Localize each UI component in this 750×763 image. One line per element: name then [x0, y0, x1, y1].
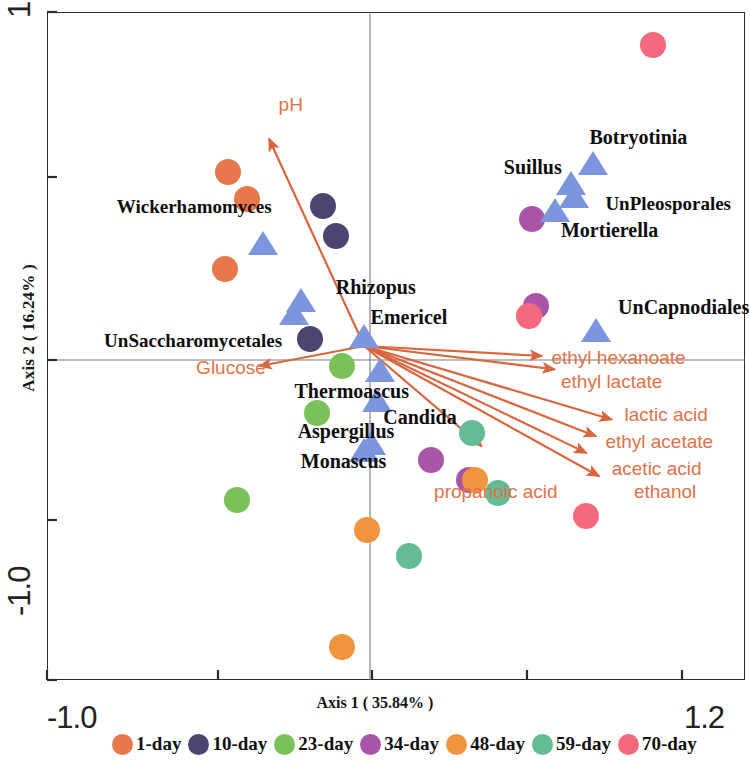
- legend-item[interactable]: 1-day: [112, 733, 181, 755]
- legend-label: 23-day: [298, 733, 353, 755]
- sample-point: [323, 223, 349, 249]
- legend-label: 34-day: [384, 733, 439, 755]
- taxon-label: UnPleosporales: [605, 193, 731, 215]
- legend-label: 10-day: [212, 733, 267, 755]
- sample-point: [212, 256, 238, 282]
- legend-label: 59-day: [556, 733, 611, 755]
- legend-color-swatch: [446, 734, 467, 755]
- sample-point: [224, 487, 250, 513]
- legend: 1-day10-day23-day34-day48-day59-day70-da…: [112, 733, 704, 755]
- taxon-label: Rhizopus: [336, 276, 416, 299]
- env-vector-label: pH: [279, 94, 303, 116]
- legend-item[interactable]: 59-day: [532, 733, 611, 755]
- x-axis-title: Axis 1 ( 35.84% ): [250, 694, 500, 712]
- sample-point: [215, 159, 241, 185]
- taxon-label: Botryotinia: [590, 126, 688, 149]
- x-axis-min-label: -1.0: [47, 700, 96, 736]
- taxon-marker: [365, 358, 395, 382]
- legend-color-swatch: [188, 734, 209, 755]
- sample-point: [418, 447, 444, 473]
- x-axis-max-label: 1.2: [684, 700, 724, 736]
- taxon-label: Mortierella: [561, 219, 658, 242]
- legend-color-swatch: [532, 734, 553, 755]
- env-vector-label: acetic acid: [612, 458, 702, 480]
- sample-point: [329, 353, 355, 379]
- env-vector-label: lactic acid: [624, 404, 707, 426]
- taxon-label: Emericel: [371, 306, 448, 329]
- taxon-label: Monascus: [301, 450, 387, 473]
- env-vector-label: Glucose: [196, 357, 266, 379]
- taxon-marker: [286, 288, 316, 312]
- env-vector-label: ethyl hexanoate: [551, 347, 685, 369]
- env-vector-label: ethyl lactate: [561, 371, 662, 393]
- sample-point: [310, 193, 336, 219]
- taxon-marker: [540, 198, 570, 222]
- legend-color-swatch: [112, 734, 133, 755]
- legend-color-swatch: [360, 734, 381, 755]
- legend-label: 48-day: [470, 733, 525, 755]
- env-vector-label: ethyl acetate: [605, 431, 713, 453]
- taxon-label: Thermoascus: [294, 380, 408, 403]
- legend-item[interactable]: 70-day: [618, 733, 697, 755]
- taxon-label: Aspergillus: [298, 420, 395, 443]
- legend-item[interactable]: 10-day: [188, 733, 267, 755]
- legend-label: 70-day: [642, 733, 697, 755]
- taxon-marker: [581, 318, 611, 342]
- sample-point: [459, 420, 485, 446]
- legend-item[interactable]: 23-day: [274, 733, 353, 755]
- y-axis-max-label: 1.0: [2, 0, 38, 18]
- sample-point: [329, 634, 355, 660]
- sample-point: [396, 543, 422, 569]
- taxon-label: UnCapnodiales: [618, 296, 749, 319]
- sample-point: [354, 517, 380, 543]
- taxon-label: Suillus: [504, 156, 562, 179]
- sample-point: [516, 303, 542, 329]
- legend-item[interactable]: 48-day: [446, 733, 525, 755]
- legend-item[interactable]: 34-day: [360, 733, 439, 755]
- y-axis-title: Axis 2 ( 16.24% ): [19, 233, 39, 423]
- legend-label: 1-day: [136, 733, 181, 755]
- biplot-figure: 1.0 -1.0 -1.0 1.2 Axis 2 ( 16.24% ) Axis…: [0, 0, 750, 763]
- taxon-marker: [578, 151, 608, 175]
- legend-color-swatch: [274, 734, 295, 755]
- env-vector-label: propanoic acid: [434, 481, 558, 503]
- taxon-label: UnSaccharomycetales: [104, 330, 282, 352]
- legend-color-swatch: [618, 734, 639, 755]
- taxon-marker: [248, 231, 278, 255]
- env-vector-label: ethanol: [634, 481, 696, 503]
- y-axis-min-label: -1.0: [2, 567, 38, 616]
- taxon-label: Wickerhamomyces: [117, 196, 272, 218]
